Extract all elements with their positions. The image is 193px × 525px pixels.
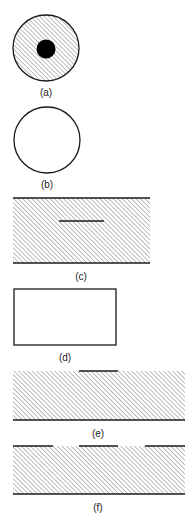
- center-dot: [37, 40, 56, 59]
- panel-b: (b): [14, 107, 80, 190]
- panel-f: (f): [13, 446, 185, 513]
- panel-f-label: (f): [93, 502, 102, 513]
- diagram-canvas: (a) (b) (c) (d) (e) (f): [0, 0, 193, 525]
- hatched-band: [13, 446, 185, 494]
- panel-d-label: (d): [59, 352, 71, 363]
- empty-rectangle: [14, 289, 116, 345]
- empty-circle: [14, 107, 80, 173]
- panel-b-label: (b): [41, 179, 53, 190]
- panel-e: (e): [13, 371, 185, 439]
- panel-a-label: (a): [40, 87, 52, 98]
- panel-c: (c): [13, 198, 150, 282]
- panel-d: (d): [14, 289, 116, 363]
- hatched-band: [13, 198, 150, 263]
- panel-e-label: (e): [92, 428, 104, 439]
- panel-a: (a): [13, 15, 79, 98]
- hatched-band: [13, 371, 185, 420]
- panel-c-label: (c): [75, 271, 87, 282]
